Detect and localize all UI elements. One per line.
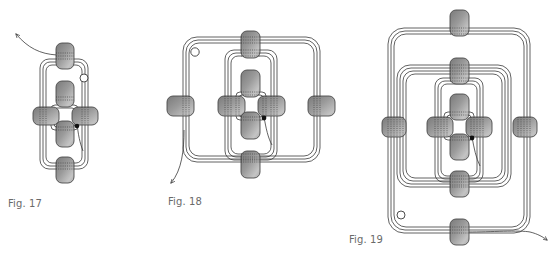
bead-bottom xyxy=(241,151,260,178)
figure-19 xyxy=(382,10,547,245)
beading-diagrams xyxy=(0,0,557,259)
bead-bottom xyxy=(450,171,469,197)
bead-outermost-bottom xyxy=(450,219,469,245)
bead-cross-bottom xyxy=(450,134,469,160)
bead-bottom xyxy=(56,157,74,183)
beads xyxy=(382,10,537,245)
bead-outer-left xyxy=(167,96,194,116)
bead-cross-left xyxy=(427,117,453,137)
beads xyxy=(33,43,98,183)
end-marker-filled-dot xyxy=(470,136,475,141)
end-marker-filled-dot xyxy=(75,124,80,129)
start-marker-open-circle xyxy=(397,211,405,219)
start-marker-open-circle xyxy=(191,48,199,56)
bead-cross-top xyxy=(450,94,469,120)
bead-cross-right xyxy=(466,117,492,137)
figure-18-caption: Fig. 18 xyxy=(168,196,202,207)
bead-top xyxy=(241,31,260,58)
bead-cross-top xyxy=(56,81,74,107)
start-marker-open-circle xyxy=(80,74,88,82)
figure-17-caption: Fig. 17 xyxy=(8,198,42,209)
bead-outer-right xyxy=(308,96,335,116)
bead-cross-right xyxy=(258,96,285,116)
figure-18 xyxy=(167,31,335,183)
bead-cross-bottom xyxy=(56,121,74,147)
thread-loops xyxy=(16,34,88,169)
bead-cross-top xyxy=(241,70,260,97)
bead-cross-bottom xyxy=(241,112,260,139)
bead-outermost-top xyxy=(450,10,469,36)
bead-outer-right xyxy=(513,117,537,137)
bead-cross-left xyxy=(218,96,245,116)
end-marker-filled-dot xyxy=(262,116,267,121)
figure-17 xyxy=(16,34,98,183)
figure-19-caption: Fig. 19 xyxy=(349,234,383,245)
